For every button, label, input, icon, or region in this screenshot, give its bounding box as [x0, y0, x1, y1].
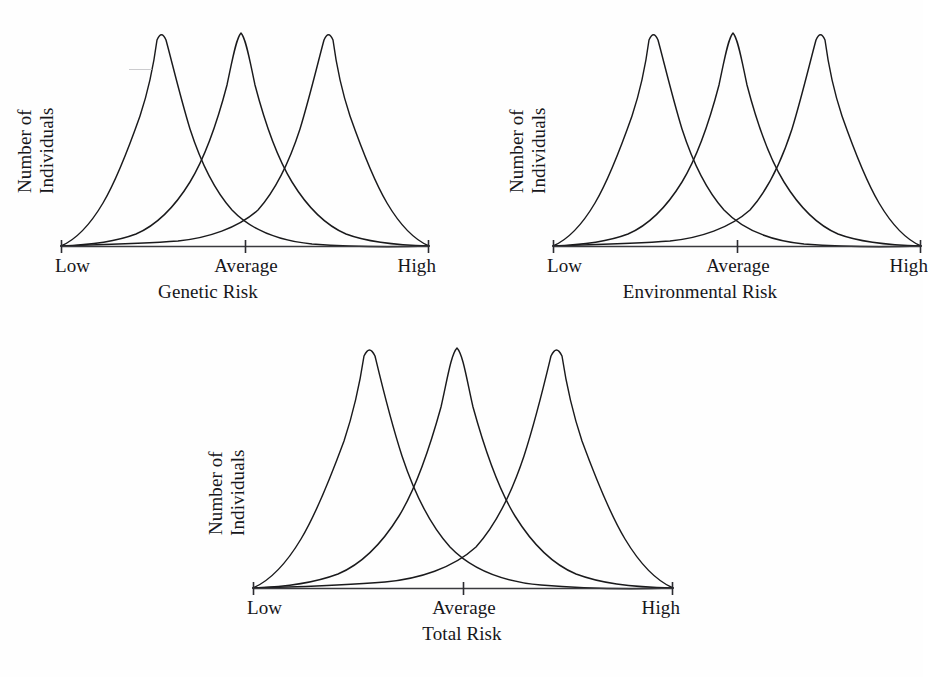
curve-center [553, 33, 921, 246]
curve-right-skew [553, 35, 921, 246]
panel-total-risk: Number of Individuals Low Average High T… [190, 330, 750, 650]
curve-right-skew [61, 35, 429, 246]
x-tick-label-low: Low [55, 256, 90, 275]
curve-left-skew [61, 35, 429, 247]
curve-left-skew [253, 350, 673, 589]
x-tick-label-high: High [642, 598, 680, 617]
x-tick-label-low: Low [547, 256, 582, 275]
x-tick-label-average: Average [214, 256, 278, 275]
plot-area [190, 330, 750, 610]
panel-genetic-risk: Number of Individuals Low Average High G… [0, 0, 461, 310]
curve-center [253, 348, 673, 588]
x-tick-label-high: High [398, 256, 436, 275]
plot-area [0, 0, 461, 270]
x-axis-title: Environmental Risk [623, 282, 777, 301]
x-tick-label-low: Low [247, 598, 282, 617]
x-tick-label-high: High [890, 256, 928, 275]
curve-center [61, 33, 429, 246]
x-tick-label-average: Average [706, 256, 770, 275]
plot-area [450, 0, 923, 270]
curve-right-skew [253, 350, 673, 588]
panel-environmental-risk: Number of Individuals Low Average High E… [450, 0, 923, 310]
curve-left-skew [553, 35, 921, 247]
x-axis-title: Genetic Risk [158, 282, 258, 301]
x-axis-title: Total Risk [422, 624, 501, 643]
paper-smudge [129, 69, 152, 70]
x-tick-label-average: Average [432, 598, 496, 617]
